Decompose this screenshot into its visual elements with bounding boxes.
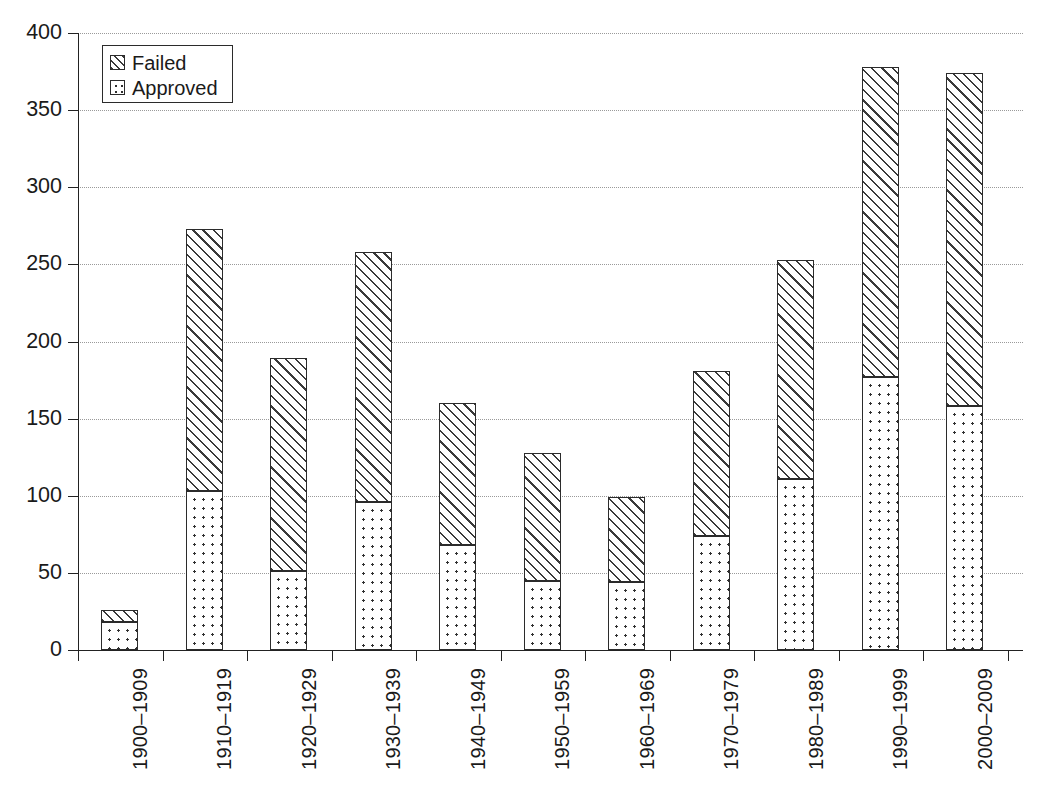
- bar-segment-failed: [439, 403, 476, 545]
- x-axis-tick: [332, 650, 333, 661]
- bar-2000-2009: [946, 73, 983, 650]
- bar-1980-1989: [777, 260, 814, 650]
- x-axis-line: [78, 650, 1023, 651]
- y-axis-tick: [68, 650, 78, 651]
- bar-segment-approved: [101, 622, 138, 650]
- y-axis-tick-label: 250: [0, 253, 62, 275]
- y-axis-tick: [68, 110, 78, 111]
- bar-1950-1959: [524, 453, 561, 650]
- bar-1940-1949: [439, 403, 476, 650]
- bar-1910-1919: [186, 229, 223, 650]
- x-axis-tick-label: 2000–2009: [975, 668, 995, 798]
- bar-segment-approved: [355, 502, 392, 650]
- x-axis-tick: [839, 650, 840, 661]
- hatch-swatch-icon: [110, 55, 125, 70]
- bar-segment-approved: [524, 581, 561, 650]
- bar-segment-failed: [355, 252, 392, 502]
- y-axis-tick: [68, 573, 78, 574]
- y-axis-tick-label: 400: [0, 22, 62, 44]
- bar-segment-approved: [946, 406, 983, 650]
- bar-segment-failed: [777, 260, 814, 479]
- bar-segment-approved: [270, 571, 307, 650]
- y-axis-tick: [68, 264, 78, 265]
- x-axis-tick-label: 1920–1929: [299, 668, 319, 798]
- x-axis-tick: [163, 650, 164, 661]
- bar-1990-1999: [862, 67, 899, 650]
- bar-segment-failed: [186, 229, 223, 491]
- bar-segment-failed: [608, 497, 645, 582]
- x-axis-tick: [501, 650, 502, 661]
- x-axis-tick: [585, 650, 586, 661]
- x-axis-tick: [247, 650, 248, 661]
- y-axis-tick-label: 150: [0, 408, 62, 430]
- gridline: [78, 33, 1023, 34]
- bar-segment-approved: [186, 491, 223, 650]
- y-axis-tick: [68, 187, 78, 188]
- y-axis-tick-label: 300: [0, 176, 62, 198]
- bar-segment-failed: [946, 73, 983, 406]
- x-axis-tick-label: 1950–1959: [552, 668, 572, 798]
- dot-swatch-icon: [110, 80, 125, 95]
- x-axis-tick-label: 1990–1999: [890, 668, 910, 798]
- x-axis-tick: [1008, 650, 1009, 661]
- x-axis-tick-label: 1960–1969: [637, 668, 657, 798]
- bar-1930-1939: [355, 252, 392, 650]
- bar-segment-failed: [270, 358, 307, 571]
- y-axis-tick-label: 200: [0, 331, 62, 353]
- x-axis-tick-label: 1900–1909: [130, 668, 150, 798]
- bar-segment-failed: [693, 371, 730, 536]
- bar-segment-approved: [777, 479, 814, 650]
- x-axis-tick: [416, 650, 417, 661]
- legend-label-failed: Failed: [132, 53, 186, 73]
- bar-1920-1929: [270, 358, 307, 650]
- x-axis-tick-label: 1980–1989: [806, 668, 826, 798]
- x-axis-tick-label: 1910–1919: [214, 668, 234, 798]
- y-axis-tick-label: 350: [0, 99, 62, 121]
- y-axis-tick-label: 100: [0, 485, 62, 507]
- bar-segment-failed: [101, 610, 138, 622]
- stacked-bar-chart: 050100150200250300350400 1900–19091910–1…: [0, 0, 1043, 800]
- y-axis-tick-label: 0: [0, 639, 62, 661]
- y-axis-tick: [68, 496, 78, 497]
- x-axis-tick: [78, 650, 79, 661]
- bar-segment-approved: [693, 536, 730, 650]
- x-axis-tick: [670, 650, 671, 661]
- x-axis-tick-label: 1940–1949: [468, 668, 488, 798]
- y-axis-tick: [68, 33, 78, 34]
- bar-segment-failed: [862, 67, 899, 377]
- x-axis-tick-label: 1970–1979: [721, 668, 741, 798]
- bar-1960-1969: [608, 497, 645, 650]
- bar-segment-approved: [608, 582, 645, 650]
- bar-1970-1979: [693, 371, 730, 650]
- bar-segment-approved: [862, 377, 899, 650]
- bar-segment-approved: [439, 545, 476, 650]
- legend-label-approved: Approved: [132, 78, 218, 98]
- x-axis-tick-label: 1930–1939: [383, 668, 403, 798]
- y-axis-tick: [68, 342, 78, 343]
- chart-legend: Failed Approved: [102, 45, 233, 103]
- y-axis-line: [78, 33, 79, 651]
- x-axis-tick: [754, 650, 755, 661]
- y-axis-tick-label: 50: [0, 562, 62, 584]
- x-axis-tick: [923, 650, 924, 661]
- legend-item-approved: Approved: [110, 75, 225, 100]
- bar-1900-1909: [101, 610, 138, 650]
- bar-segment-failed: [524, 453, 561, 581]
- legend-item-failed: Failed: [110, 50, 225, 75]
- y-axis-tick: [68, 419, 78, 420]
